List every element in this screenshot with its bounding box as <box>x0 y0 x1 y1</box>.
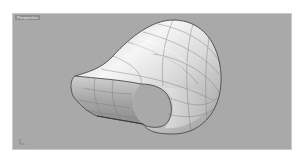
world-axes-icon <box>19 137 27 145</box>
surface-model[interactable] <box>13 14 292 150</box>
viewport-perspective[interactable]: Perspective <box>12 13 292 150</box>
